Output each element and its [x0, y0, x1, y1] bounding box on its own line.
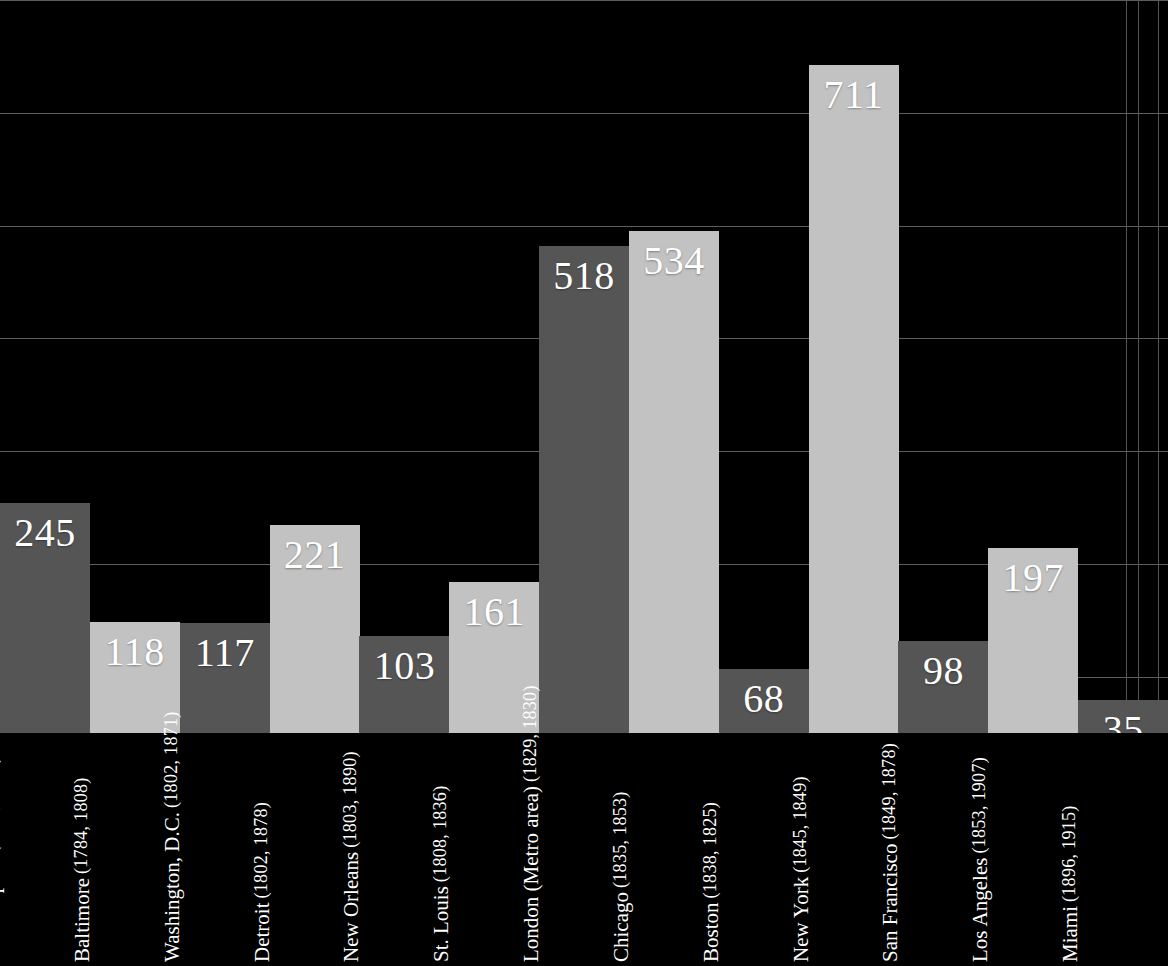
- x-tick-years: (1835, 1853): [610, 791, 630, 888]
- bar-value-label: 221: [270, 535, 360, 575]
- x-tick-years: (1845, 1849): [790, 776, 810, 873]
- x-tick-label: (1784, 1808)Baltimore: [71, 777, 94, 962]
- x-tick-name: Chicago: [610, 892, 633, 962]
- bar[interactable]: 197: [988, 548, 1078, 733]
- x-tick-years: (1838, 1825): [700, 802, 720, 899]
- x-tick-label: (1838, 1825)Boston: [700, 802, 723, 962]
- x-tick-years: (1896, 1915): [1059, 805, 1079, 902]
- x-tick-years: (1853, 1907): [969, 757, 989, 854]
- x-tick-label: (1751, 1828)Philadelphia: [0, 756, 4, 962]
- x-tick-name: Washington, D.C.: [161, 812, 184, 962]
- x-tick-years: (1803, 1890): [340, 751, 360, 848]
- x-tick-name: San Francisco: [879, 844, 902, 962]
- x-tick-name: Baltimore: [71, 878, 94, 962]
- x-tick-years: (1751, 1828): [0, 756, 1, 853]
- x-tick-name: Detroit: [251, 903, 274, 962]
- bar[interactable]: 117: [180, 623, 270, 733]
- gridline: [0, 0, 1168, 1]
- x-tick-years: (1802, 1871): [161, 711, 181, 808]
- bar-chart: 245118117221103161518534687119819735 (17…: [0, 0, 1168, 966]
- x-tick-name: Philadelphia: [0, 857, 4, 962]
- x-tick-years: (1802, 1878): [251, 802, 271, 899]
- x-tick-label: (1802, 1871)Washington, D.C.: [161, 711, 184, 962]
- x-tick-label: (1802, 1878)Detroit: [251, 802, 274, 962]
- x-tick-years: (1784, 1808): [71, 777, 91, 874]
- x-tick-label: (1829, 1830)London (Metro area): [520, 685, 543, 962]
- x-tick-label: (1853, 1907)Los Angeles: [969, 757, 992, 962]
- bar[interactable]: 35: [1078, 700, 1168, 733]
- bar[interactable]: 103: [359, 636, 449, 733]
- bar[interactable]: 221: [270, 525, 360, 733]
- vertical-rule: [1138, 0, 1139, 733]
- x-tick-name: Los Angeles: [969, 858, 992, 962]
- x-tick-label: (1803, 1890)New Orleans: [340, 751, 363, 962]
- x-tick-label: (1835, 1853)Chicago: [610, 791, 633, 962]
- bar-value-label: 35: [1078, 710, 1168, 733]
- bar-value-label: 518: [539, 256, 629, 296]
- vertical-rule: [1126, 0, 1127, 733]
- bar[interactable]: 518: [539, 246, 629, 733]
- x-tick-name: New York: [790, 877, 813, 962]
- x-tick-years: (1849, 1878): [879, 743, 899, 840]
- x-tick-name: Boston: [700, 902, 723, 962]
- x-tick-name: London (Metro area): [520, 786, 543, 962]
- x-tick-name: New Orleans: [340, 852, 363, 962]
- plot-area: 245118117221103161518534687119819735: [0, 0, 1168, 733]
- x-axis-labels: (1751, 1828)Philadelphia(1784, 1808)Balt…: [0, 733, 1168, 966]
- gridline: [0, 113, 1168, 114]
- bar[interactable]: 68: [719, 669, 809, 733]
- bar[interactable]: 98: [898, 641, 988, 733]
- gridline: [0, 226, 1168, 227]
- x-tick-years: (1808, 1836): [430, 786, 450, 883]
- bar[interactable]: 534: [629, 231, 719, 733]
- x-tick-name: St. Louis: [430, 886, 453, 962]
- bar-value-label: 103: [359, 646, 449, 686]
- x-tick-name: Miami: [1059, 906, 1082, 962]
- bar-value-label: 98: [898, 651, 988, 691]
- bar-value-label: 197: [988, 558, 1078, 598]
- x-tick-label: (1896, 1915)Miami: [1059, 805, 1082, 962]
- bar[interactable]: 245: [0, 503, 90, 733]
- bar-value-label: 118: [90, 632, 180, 672]
- vertical-rule: [1158, 0, 1159, 733]
- bar-value-label: 245: [0, 513, 90, 553]
- bar-value-label: 711: [809, 75, 899, 115]
- bar-value-label: 161: [449, 592, 539, 632]
- bar-value-label: 68: [719, 679, 809, 719]
- x-tick-label: (1849, 1878)San Francisco: [879, 743, 902, 962]
- bar-value-label: 117: [180, 633, 270, 673]
- x-tick-years: (1829, 1830): [520, 685, 540, 782]
- x-tick-label: (1808, 1836)St. Louis: [430, 786, 453, 962]
- x-tick-label: (1845, 1849)New York: [790, 776, 813, 962]
- bar[interactable]: 711: [809, 65, 899, 733]
- bar-value-label: 534: [629, 241, 719, 281]
